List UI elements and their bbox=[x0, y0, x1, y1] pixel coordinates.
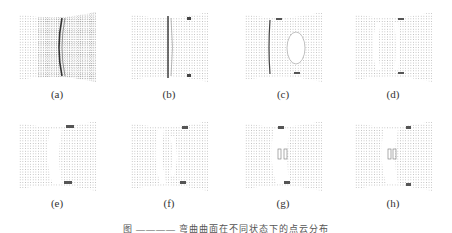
point-cloud-surface-h bbox=[348, 117, 438, 195]
panel-label-c: (c) bbox=[238, 88, 328, 100]
panel-a bbox=[12, 8, 102, 86]
point-cloud-surface-a bbox=[12, 8, 102, 86]
panel-h bbox=[348, 117, 438, 195]
point-cloud-surface-d bbox=[348, 8, 438, 86]
panel-f bbox=[124, 117, 214, 195]
panel-label-b: (b) bbox=[124, 88, 214, 100]
panel-label-e: (e) bbox=[12, 197, 102, 209]
point-cloud-surface-e bbox=[12, 117, 102, 195]
panel-label-d: (d) bbox=[348, 88, 438, 100]
panel-d bbox=[348, 8, 438, 86]
panel-label-h: (h) bbox=[348, 197, 438, 209]
panel-c bbox=[238, 8, 328, 86]
panel-label-f: (f) bbox=[124, 197, 214, 209]
panel-label-a: (a) bbox=[12, 88, 102, 100]
panel-label-g: (g) bbox=[238, 197, 328, 209]
point-cloud-surface-b bbox=[124, 8, 214, 86]
panel-g bbox=[238, 117, 328, 195]
point-cloud-surface-c bbox=[238, 8, 328, 86]
panel-b bbox=[124, 8, 214, 86]
figure-caption: 图 ———— 弯曲曲面在不同状态下的点云分布 bbox=[0, 222, 452, 233]
panel-e bbox=[12, 117, 102, 195]
point-cloud-surface-f bbox=[124, 117, 214, 195]
point-cloud-surface-g bbox=[238, 117, 328, 195]
